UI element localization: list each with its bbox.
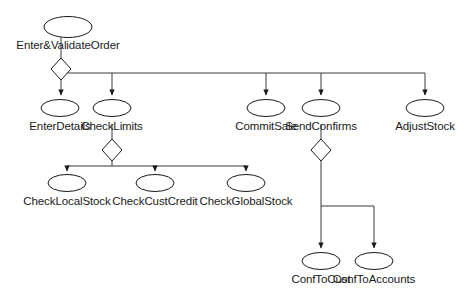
node-conf-to-cust[interactable] [302, 253, 340, 270]
node-enter-details[interactable] [41, 100, 79, 117]
diagram-canvas: Enter&ValidateOrder EnterDetails CheckLi… [0, 0, 471, 301]
node-check-local-stock[interactable] [48, 175, 86, 192]
check-limits-decomposition-diamond[interactable] [102, 139, 122, 161]
node-check-global-stock[interactable] [227, 175, 265, 192]
node-send-confirms[interactable] [302, 100, 340, 117]
node-enter-validate-order[interactable] [44, 17, 92, 38]
node-commit-sale[interactable] [247, 100, 285, 117]
label-send-confirms: SendConfirms [285, 120, 357, 133]
node-check-limits[interactable] [93, 100, 131, 117]
root-decomposition-diamond[interactable] [51, 58, 71, 80]
label-conf-to-accounts: ConfToAccounts [333, 273, 415, 286]
label-check-cust-credit: CheckCustCredit [112, 195, 197, 208]
label-check-local-stock: CheckLocalStock [23, 195, 110, 208]
label-enter-validate-order: Enter&ValidateOrder [16, 39, 119, 52]
label-check-limits: CheckLimits [81, 120, 143, 133]
label-adjust-stock: AdjustStock [395, 120, 455, 133]
send-confirms-decomposition-diamond[interactable] [311, 139, 331, 161]
node-check-cust-credit[interactable] [136, 175, 174, 192]
label-check-global-stock: CheckGlobalStock [200, 195, 293, 208]
node-conf-to-accounts[interactable] [355, 253, 393, 270]
node-adjust-stock[interactable] [406, 100, 444, 117]
